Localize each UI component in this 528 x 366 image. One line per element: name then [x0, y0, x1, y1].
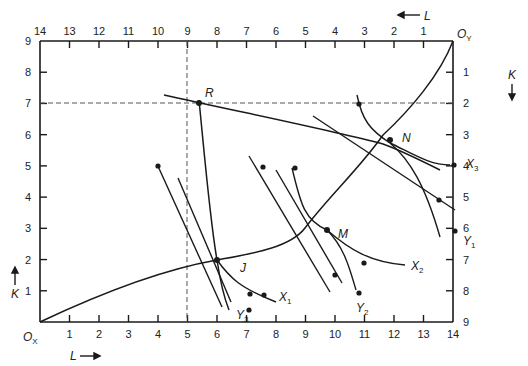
top-tick-label: 2: [391, 25, 397, 37]
left-tick-label: 7: [25, 97, 31, 109]
right-K-label: K: [508, 68, 517, 82]
axis-ticks: [40, 41, 453, 322]
left-tick-label: 6: [25, 129, 31, 141]
point-R: [196, 100, 202, 106]
point-J: [214, 257, 220, 263]
top-tick-label: 10: [152, 25, 164, 37]
isoquant-R-to-J: [199, 100, 229, 310]
right-tick-label: 2: [463, 97, 469, 109]
label-Y1: Y1: [463, 234, 476, 250]
top-tick-label: 14: [34, 25, 46, 37]
bottom-tick-label: 9: [302, 328, 308, 340]
bottom-tick-label: 1: [66, 328, 72, 340]
isoquants-at-J: [157, 164, 276, 307]
arrow-down-icon: [509, 84, 515, 100]
right-tick-label: 1: [463, 66, 469, 78]
box-frame: [40, 41, 453, 322]
bottom-tick-label: 4: [155, 328, 161, 340]
left-tick-label: 8: [25, 66, 31, 78]
contract-curve: [40, 41, 453, 322]
label-M: M: [338, 227, 348, 241]
isoquants-at-M: [249, 156, 405, 292]
bottom-tick-label: 7: [243, 328, 249, 340]
left-tick-label: 2: [25, 254, 31, 266]
bottom-tick-label: 6: [214, 328, 220, 340]
bottom-tick-label: 2: [96, 328, 102, 340]
arrow-right-icon: [80, 353, 100, 359]
top-tick-label: 8: [214, 25, 220, 37]
right-tick-label: 9: [463, 316, 469, 328]
bottom-tick-label: 11: [359, 328, 370, 340]
top-tick-label: 11: [123, 25, 134, 37]
origin-x-label: OX: [23, 330, 38, 346]
label-Y2: Y2: [356, 301, 369, 317]
bottom-tick-label: 14: [447, 328, 459, 340]
left-tick-label: 9: [25, 35, 31, 47]
edgeworth-box-diagram: 1234567891011121314141312111098765432112…: [0, 0, 528, 366]
top-tick-label: 13: [63, 25, 75, 37]
bottom-tick-label: 12: [388, 328, 400, 340]
label-X3: X3: [465, 157, 479, 173]
top-tick-label: 5: [302, 25, 308, 37]
origin-y-label: OY: [457, 27, 472, 43]
bottom-tick-label: 3: [125, 328, 131, 340]
isoquant-dots-N: [356, 101, 457, 233]
key-points: [196, 100, 393, 263]
label-X2: X2: [410, 259, 424, 275]
label-X1: X1: [278, 290, 292, 306]
bottom-tick-label: 13: [417, 328, 429, 340]
right-tick-label: 3: [463, 129, 469, 141]
right-tick-label: 7: [463, 254, 469, 266]
right-tick-label: 5: [463, 191, 469, 203]
arrow-up-icon: [12, 267, 18, 285]
isoquants-at-N: [313, 95, 455, 237]
left-tick-label: 5: [25, 160, 31, 172]
bottom-L-label: L: [70, 349, 77, 363]
top-tick-label: 12: [93, 25, 105, 37]
left-tick-label: 1: [25, 285, 31, 297]
left-K-label: K: [11, 287, 20, 301]
left-tick-label: 4: [25, 191, 31, 203]
top-tick-label: 1: [420, 25, 426, 37]
label-N: N: [402, 131, 411, 145]
bottom-tick-label: 8: [273, 328, 279, 340]
label-J: J: [239, 261, 247, 275]
left-tick-label: 3: [25, 222, 31, 234]
top-tick-label: 3: [361, 25, 367, 37]
right-tick-label: 8: [463, 285, 469, 297]
isoquant-dots-M: [260, 164, 366, 295]
top-tick-label: 9: [184, 25, 190, 37]
point-N: [387, 137, 393, 143]
arrow-left-icon: [398, 12, 420, 18]
label-R: R: [205, 86, 214, 100]
dashed-guides: [40, 41, 453, 322]
bottom-tick-label: 10: [329, 328, 341, 340]
right-tick-label: 6: [463, 222, 469, 234]
bottom-tick-label: 5: [184, 328, 190, 340]
point-M: [324, 227, 330, 233]
axis-tick-labels: 1234567891011121314141312111098765432112…: [25, 25, 469, 340]
top-tick-label: 6: [273, 25, 279, 37]
top-L-label: L: [424, 9, 431, 23]
top-tick-label: 4: [332, 25, 338, 37]
top-tick-label: 7: [243, 25, 249, 37]
